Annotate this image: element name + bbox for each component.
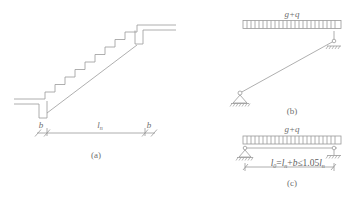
panel-b-inclined-beam <box>230 21 341 107</box>
formula-term3-sub: n <box>322 163 325 169</box>
effective-span-formula: l0=ln+b≤1.05ln <box>254 158 337 170</box>
panel-c-labels: g+q l0=ln+b≤1.05ln (c) <box>254 124 337 188</box>
formula-coef: 1.05 <box>303 158 320 168</box>
load-label-c: g+q <box>284 124 300 134</box>
caption-b: (b) <box>287 106 298 116</box>
inclined-beam-member <box>240 41 334 93</box>
stair-tread-outline <box>14 25 176 99</box>
panel-a-labels: b ln b (a) <box>39 114 152 160</box>
load-label-b: g+q <box>284 9 300 19</box>
roller-support-b <box>326 31 341 49</box>
load-ticks-b <box>247 21 335 29</box>
clear-span-subscript: n <box>100 125 103 131</box>
load-strip-c <box>243 136 341 144</box>
load-strip-b <box>243 21 341 29</box>
left-landing-slab <box>14 101 47 118</box>
caption-c: (c) <box>287 178 297 188</box>
dim-label-clear-span: ln <box>69 114 123 133</box>
pin-support-b <box>230 91 250 107</box>
load-ticks-c <box>247 136 335 144</box>
dim-label-b-right: b <box>147 120 152 130</box>
caption-a: (a) <box>91 150 101 160</box>
figure-root: b ln b (a) g+q (b) g+q l0=ln+b≤1.05ln (c… <box>0 0 360 197</box>
stair-soffit-line <box>47 45 137 113</box>
dim-label-b-left: b <box>39 120 44 130</box>
right-landing-slab <box>135 30 176 44</box>
